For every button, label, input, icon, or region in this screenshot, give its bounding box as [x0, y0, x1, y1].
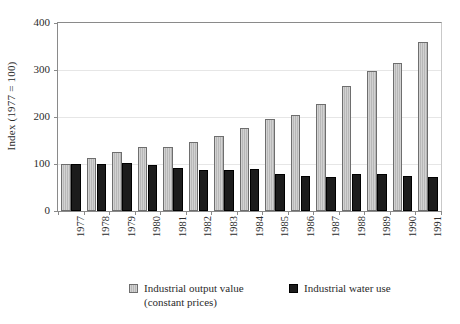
bar-water-1977	[71, 164, 81, 211]
y-tickmark	[54, 70, 58, 71]
x-tick-label: 1984	[254, 216, 265, 262]
bar-group	[138, 23, 158, 211]
bar-output-1981	[163, 147, 173, 211]
bar-output-1979	[112, 152, 122, 211]
x-tick-label: 1983	[228, 216, 239, 262]
bar-group	[367, 23, 387, 211]
bar-water-1984	[250, 169, 260, 211]
bar-water-1991	[428, 177, 438, 211]
bar-output-1980	[138, 147, 148, 211]
bar-water-1990	[403, 176, 413, 211]
legend-item-industrial-water-use: Industrial water use	[289, 281, 391, 295]
x-tick-label: 1981	[177, 216, 188, 262]
legend-label-water: Industrial water use	[304, 281, 391, 295]
legend-label-output-line2: (constant prices)	[144, 295, 244, 309]
bar-output-1983	[214, 136, 224, 211]
y-tick-label: 400	[34, 16, 51, 28]
y-axis-tick-labels: 0100200300400	[20, 0, 54, 220]
bar-water-1989	[377, 174, 387, 211]
bar-group	[189, 23, 209, 211]
x-tick-label: 1986	[305, 216, 316, 262]
bar-water-1978	[97, 164, 107, 211]
bar-output-1989	[367, 71, 377, 211]
y-tickmark	[54, 23, 58, 24]
bar-water-1983	[224, 170, 234, 211]
x-tick-label: 1978	[100, 216, 111, 262]
bar-output-1978	[87, 158, 97, 211]
bar-group	[112, 23, 132, 211]
bar-water-1988	[352, 174, 362, 211]
y-tick-label: 200	[34, 110, 51, 122]
x-tick-label: 1979	[126, 216, 137, 262]
x-axis-tick-labels: 1977197819791980198119821983198419851986…	[57, 214, 442, 272]
bar-water-1982	[199, 170, 209, 211]
bar-output-1977	[61, 164, 71, 211]
bar-group	[214, 23, 234, 211]
legend-swatch-icon-output	[129, 284, 138, 293]
y-tickmark	[54, 117, 58, 118]
bar-output-1986	[291, 115, 301, 211]
bar-group	[87, 23, 107, 211]
bar-water-1986	[301, 176, 311, 211]
bar-group	[342, 23, 362, 211]
bar-water-1980	[148, 165, 158, 211]
bar-chart-figure: Index (1977 = 100) 0100200300400 1977197…	[0, 0, 460, 324]
y-tick-label: 0	[45, 204, 51, 216]
y-axis-title: Index (1977 = 100)	[0, 0, 22, 212]
x-tick-label: 1985	[279, 216, 290, 262]
legend-item-industrial-output-value: Industrial output value (constant prices…	[129, 281, 244, 309]
bar-output-1985	[265, 119, 275, 211]
legend-swatch-icon-water	[289, 284, 298, 293]
y-axis-title-text: Index (1977 = 100)	[5, 62, 17, 151]
bar-group	[393, 23, 413, 211]
x-tick-label: 1988	[356, 216, 367, 262]
x-tick-label: 1982	[202, 216, 213, 262]
y-tick-label: 100	[34, 157, 51, 169]
bar-water-1981	[173, 168, 183, 211]
y-tick-label: 300	[34, 63, 51, 75]
bar-water-1979	[122, 163, 132, 211]
bar-water-1985	[275, 174, 285, 211]
bar-output-1987	[316, 104, 326, 211]
x-tick-label: 1989	[381, 216, 392, 262]
legend-label-output: Industrial output value (constant prices…	[144, 281, 244, 309]
bar-group	[418, 23, 438, 211]
bar-group	[240, 23, 260, 211]
bar-output-1988	[342, 86, 352, 211]
bar-output-1991	[418, 42, 428, 211]
bar-output-1984	[240, 128, 250, 211]
bar-group	[316, 23, 336, 211]
legend-label-water-line1: Industrial water use	[304, 282, 391, 294]
bar-group	[291, 23, 311, 211]
bar-water-1987	[326, 177, 336, 211]
x-tick-label: 1991	[432, 216, 443, 262]
plot-area	[57, 22, 442, 212]
bar-group	[265, 23, 285, 211]
x-tick-label: 1980	[151, 216, 162, 262]
bar-group	[61, 23, 81, 211]
x-tick-label: 1990	[407, 216, 418, 262]
bar-output-1982	[189, 142, 199, 211]
bar-group	[163, 23, 183, 211]
chart-legend: Industrial output value (constant prices…	[57, 279, 442, 323]
legend-label-output-line1: Industrial output value	[144, 282, 244, 294]
bar-output-1990	[393, 63, 403, 211]
x-tick-label: 1977	[75, 216, 86, 262]
y-tickmark	[54, 164, 58, 165]
x-tick-label: 1987	[330, 216, 341, 262]
